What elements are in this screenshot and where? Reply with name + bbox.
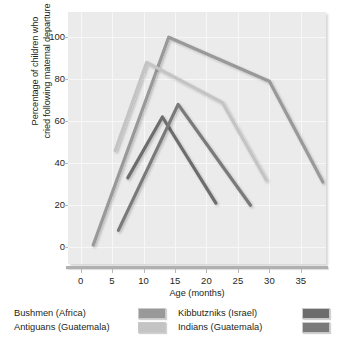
x-tick-label: 15 (163, 275, 187, 286)
y-tick-label: 0 (39, 242, 65, 252)
x-axis-line (66, 266, 328, 269)
y-tick-label: 80 (39, 74, 65, 84)
y-tick-mark (64, 205, 68, 206)
y-tick-label: 40 (39, 158, 65, 168)
x-tick-mark (175, 269, 176, 273)
x-tick-mark (301, 269, 302, 273)
legend-swatch (302, 322, 330, 333)
x-tick-mark (238, 269, 239, 273)
legend-item: Kibbutzniks (Israel) (178, 307, 330, 320)
series-line (128, 117, 216, 203)
legend-label: Kibbutzniks (Israel) (178, 308, 257, 319)
x-tick-label: 25 (226, 275, 250, 286)
y-tick-mark (64, 37, 68, 38)
legend-item: Antiguans (Guatemala) (14, 321, 166, 334)
y-tick-mark (64, 163, 68, 164)
chart-legend: Bushmen (Africa)Antiguans (Guatemala) Ki… (14, 306, 330, 336)
x-tick-label: 20 (194, 275, 218, 286)
data-lines (68, 12, 326, 264)
legend-label: Bushmen (Africa) (14, 308, 86, 319)
chart-figure: Percentage of children who cried followi… (0, 0, 338, 342)
x-tick-label: 10 (132, 275, 156, 286)
x-tick-label: 35 (289, 275, 313, 286)
x-tick-mark (144, 269, 145, 273)
legend-column-right: Kibbutzniks (Israel)Indians (Guatemala) (178, 306, 330, 336)
legend-column-left: Bushmen (Africa)Antiguans (Guatemala) (14, 306, 166, 336)
y-tick-mark (64, 247, 68, 248)
y-axis-tick-labels: 020406080100 (38, 0, 65, 342)
y-tick-mark (64, 121, 68, 122)
legend-label: Indians (Guatemala) (178, 322, 262, 333)
plot-area (68, 12, 326, 264)
x-tick-mark (269, 269, 270, 273)
x-tick-label: 0 (69, 275, 93, 286)
legend-swatch (302, 308, 330, 319)
legend-label: Antiguans (Guatemala) (14, 322, 110, 333)
x-tick-label: 30 (257, 275, 281, 286)
y-tick-label: 100 (39, 32, 65, 42)
x-tick-mark (206, 269, 207, 273)
x-tick-mark (81, 269, 82, 273)
legend-item: Indians (Guatemala) (178, 321, 330, 334)
x-tick-mark (112, 269, 113, 273)
y-tick-mark (64, 79, 68, 80)
x-tick-label: 5 (100, 275, 124, 286)
legend-swatch (138, 322, 166, 333)
legend-swatch (138, 308, 166, 319)
legend-item: Bushmen (Africa) (14, 307, 166, 320)
y-tick-label: 60 (39, 116, 65, 126)
x-axis-title: Age (months) (68, 288, 326, 298)
y-tick-label: 20 (39, 200, 65, 210)
